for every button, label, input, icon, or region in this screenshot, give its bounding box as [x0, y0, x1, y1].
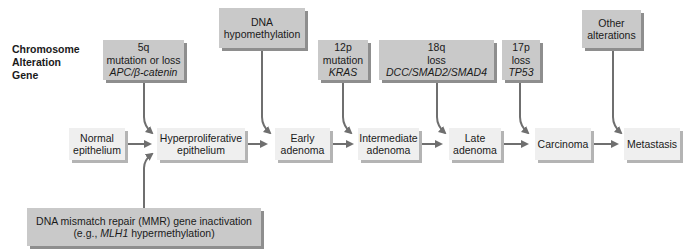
- mmr-label: DNA mismatch repair (MMR) gene inactivat…: [36, 215, 252, 228]
- stage-label: adenoma: [453, 144, 497, 157]
- chromosome-label: 18q: [428, 41, 446, 54]
- alteration-12p: 12p mutation KRAS: [318, 40, 368, 80]
- gene-label: TP53: [508, 66, 533, 79]
- alteration-5q: 5q mutation or loss APC/β-catenin: [103, 40, 184, 80]
- alteration-label: hypomethylation: [224, 28, 300, 41]
- mmr-inactivation-box: DNA mismatch repair (MMR) gene inactivat…: [27, 208, 261, 246]
- alteration-label: mutation or loss: [106, 54, 180, 67]
- stage-early-adenoma: Early adenoma: [275, 128, 330, 160]
- alteration-18q: 18q loss DCC/SMAD2/SMAD4: [379, 40, 494, 80]
- alteration-dna-hypomethylation: DNA hypomethylation: [219, 8, 305, 48]
- alteration-17p: 17p loss TP53: [502, 40, 540, 80]
- mmr-example: (e.g., MLH1 hypermethylation): [73, 227, 214, 240]
- stage-label: epithelium: [73, 144, 121, 157]
- stage-label: Metastasis: [627, 138, 677, 151]
- chromosome-label: 17p: [512, 41, 530, 54]
- gene-label: DCC/SMAD2/SMAD4: [386, 66, 487, 79]
- stage-late-adenoma: Late adenoma: [449, 128, 501, 160]
- stage-label: Normal: [80, 132, 114, 145]
- stage-label: adenoma: [367, 144, 411, 157]
- stage-label: Intermediate: [359, 132, 417, 145]
- alteration-label: Other: [598, 17, 624, 30]
- gene-label: KRAS: [329, 66, 358, 79]
- stage-normal-epithelium: Normal epithelium: [69, 128, 125, 160]
- chromosome-label: 12p: [334, 41, 352, 54]
- stage-metastasis: Metastasis: [624, 128, 680, 160]
- stage-label: Hyperproliferative: [160, 132, 242, 145]
- mmr-example-prefix: (e.g.,: [73, 227, 100, 239]
- gene-label: APC/β-catenin: [110, 66, 178, 79]
- alteration-other: Other alterations: [582, 10, 641, 48]
- stage-label: Late: [465, 132, 485, 145]
- mmr-example-suffix: hypermethylation): [128, 227, 214, 239]
- stage-label: Early: [291, 132, 315, 145]
- alteration-label: mutation: [323, 54, 363, 67]
- gene-label: MLH1: [100, 227, 128, 239]
- chromosome-label: 5q: [138, 41, 150, 54]
- stage-label: epithelium: [177, 144, 225, 157]
- stage-label: adenoma: [281, 144, 325, 157]
- stage-hyperproliferative-epithelium: Hyperproliferative epithelium: [157, 128, 245, 160]
- stage-label: Carcinoma: [538, 138, 589, 151]
- alteration-label: loss: [427, 54, 446, 67]
- alteration-label: alterations: [587, 29, 635, 42]
- alteration-label: DNA: [251, 16, 273, 29]
- stage-carcinoma: Carcinoma: [535, 128, 591, 160]
- alteration-label: loss: [512, 54, 531, 67]
- stage-intermediate-adenoma: Intermediate adenoma: [358, 128, 419, 160]
